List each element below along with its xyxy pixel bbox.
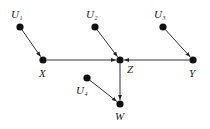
node-z — [116, 56, 123, 63]
node-u2 — [91, 23, 98, 30]
node-u4 — [83, 74, 90, 81]
label-z: Z — [127, 63, 134, 75]
label-x: X — [38, 67, 47, 79]
label-u4: U4 — [76, 84, 87, 97]
nodes — [16, 23, 196, 107]
label-u2: U2 — [86, 8, 97, 21]
edge-u3-to-y — [165, 30, 190, 57]
edge-u2-to-z — [97, 30, 117, 57]
edges — [22, 30, 190, 102]
edge-u4-to-w — [90, 80, 117, 101]
label-u3: U3 — [154, 8, 165, 21]
label-y: Y — [189, 67, 197, 79]
label-u1: U1 — [11, 8, 22, 21]
node-x — [39, 56, 46, 63]
node-w — [116, 100, 123, 107]
causal-diagram: U1U2U3XZYU4W — [0, 0, 210, 129]
edge-u1-to-x — [22, 30, 41, 57]
label-w: W — [115, 110, 125, 122]
node-u1 — [16, 23, 23, 30]
node-u3 — [159, 23, 166, 30]
labels: U1U2U3XZYU4W — [11, 8, 197, 122]
node-y — [189, 56, 196, 63]
